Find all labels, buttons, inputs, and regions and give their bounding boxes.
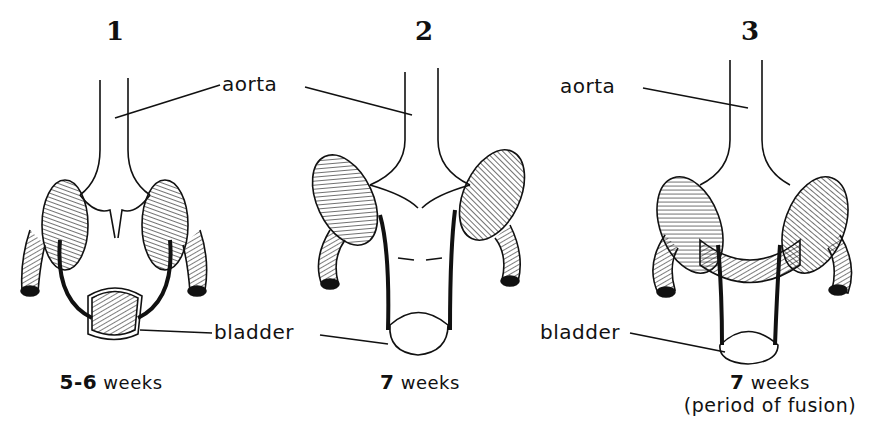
caption-panel-2: 7 weeks bbox=[360, 370, 480, 394]
caption-panel-3: 7 weeks (period of fusion) bbox=[670, 370, 870, 416]
caption-3-line2: (period of fusion) bbox=[670, 394, 870, 416]
panel-1-drawing bbox=[21, 78, 220, 340]
bladder-label-1: bladder bbox=[214, 320, 294, 344]
panel-3-number: 3 bbox=[741, 16, 759, 46]
panel-1-number: 1 bbox=[106, 16, 124, 46]
caption-panel-1: 5-6 weeks bbox=[46, 370, 176, 394]
panel-3-drawing bbox=[630, 60, 860, 364]
caption-2-bold: 7 bbox=[380, 370, 394, 394]
bladder-label-3: bladder bbox=[540, 320, 620, 344]
aorta-label-3: aorta bbox=[560, 74, 615, 98]
aorta-label-1: aorta bbox=[222, 72, 277, 96]
caption-2-rest: weeks bbox=[401, 372, 460, 393]
caption-3-rest: weeks bbox=[751, 372, 810, 393]
kidney-development-drawing bbox=[0, 0, 886, 429]
caption-1-bold: 5-6 bbox=[59, 370, 97, 394]
caption-3-bold: 7 bbox=[730, 370, 744, 394]
panel-2-number: 2 bbox=[415, 16, 433, 46]
panel-2-drawing bbox=[299, 68, 537, 355]
caption-1-rest: weeks bbox=[103, 372, 162, 393]
